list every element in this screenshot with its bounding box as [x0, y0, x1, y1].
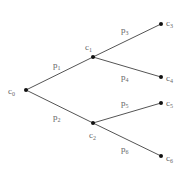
edge-label-p4-subscript: 4 — [126, 77, 129, 83]
edge-c1-c3 — [93, 24, 161, 57]
node-label-c3: c3 — [166, 18, 173, 29]
node-label-c2: c2 — [89, 130, 96, 141]
node-label-c6: c6 — [166, 153, 173, 164]
node-label-c2-subscript: 2 — [93, 135, 96, 141]
node-c1 — [91, 55, 95, 59]
node-label-c5: c5 — [166, 98, 173, 109]
node-label-c5-subscript: 5 — [170, 103, 173, 109]
edge-label-p5: p5 — [121, 98, 129, 109]
edge-label-p3-subscript: 3 — [126, 30, 129, 36]
node-label-c0-subscript: 0 — [12, 91, 15, 97]
edge-label-p2-subscript: 2 — [58, 117, 61, 123]
node-label-c1-subscript: 1 — [89, 47, 92, 53]
edge-label-p6: p6 — [121, 144, 129, 155]
edge-label-p2: p2 — [53, 112, 61, 123]
node-label-c4-subscript: 4 — [170, 78, 173, 84]
edge-label-p4: p4 — [121, 72, 129, 83]
edge-label-p3: p3 — [121, 25, 129, 36]
node-c6 — [159, 154, 163, 158]
edge-label-p5-subscript: 5 — [126, 103, 129, 109]
node-label-c0: c0 — [8, 86, 15, 97]
node-label-c3-subscript: 3 — [170, 23, 173, 29]
node-label-c4: c4 — [166, 73, 173, 84]
node-c3 — [159, 22, 163, 26]
node-c5 — [159, 101, 163, 105]
edge-label-p1-subscript: 1 — [58, 65, 61, 71]
edge-c1-c4 — [93, 57, 161, 77]
node-label-c1: c1 — [85, 42, 92, 53]
edge-c0-c1 — [26, 57, 93, 90]
probability-tree-diagram: p1p2p3p4p5p6 c0c1c2c3c4c5c6 — [0, 0, 184, 174]
node-c2 — [91, 121, 95, 125]
node-label-c6-subscript: 6 — [170, 158, 173, 164]
edge-label-p1: p1 — [53, 60, 61, 71]
edge-label-p6-subscript: 6 — [126, 149, 129, 155]
node-labels: c0c1c2c3c4c5c6 — [8, 18, 173, 164]
node-c0 — [24, 88, 28, 92]
node-c4 — [159, 75, 163, 79]
